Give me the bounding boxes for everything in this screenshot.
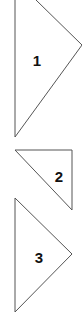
triangle-2: 2 — [15, 150, 72, 210]
triangle-3-label: 3 — [35, 249, 43, 266]
triangle-diagram: 1 2 3 — [0, 0, 82, 323]
triangle-1: 1 — [15, 0, 82, 137]
triangle-3: 3 — [15, 198, 72, 312]
triangle-2-label: 2 — [55, 168, 63, 185]
triangle-1-label: 1 — [33, 52, 41, 69]
